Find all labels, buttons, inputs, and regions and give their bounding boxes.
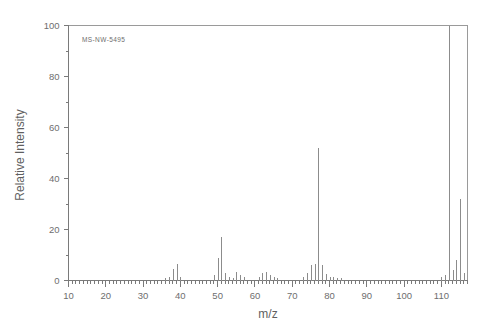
x-tick-label: 30: [138, 290, 149, 301]
y-axis-title: Relative Intensity: [13, 109, 27, 200]
sample-id-label: MS-NW-5495: [82, 36, 125, 43]
y-axis-tick-labels: 020406080100: [44, 20, 60, 286]
x-tick-label: 70: [287, 290, 298, 301]
x-tick-label: 100: [396, 290, 412, 301]
y-tick-label: 40: [49, 173, 60, 184]
y-tick-label: 20: [49, 224, 60, 235]
spectrum-peaks: [166, 26, 465, 281]
plot-frame: [69, 26, 468, 281]
mass-spectrum-figure: 020406080100 102030405060708090100110 Re…: [0, 0, 492, 329]
x-axis-title: m/z: [258, 307, 277, 321]
x-tick-label: 40: [175, 290, 186, 301]
y-tick-label: 80: [49, 71, 60, 82]
y-tick-label: 0: [54, 275, 59, 286]
x-tick-label: 60: [250, 290, 261, 301]
y-tick-label: 100: [44, 20, 60, 31]
y-tick-label: 60: [49, 122, 60, 133]
x-tick-label: 90: [362, 290, 373, 301]
x-tick-label: 80: [324, 290, 335, 301]
x-tick-label: 20: [101, 290, 112, 301]
x-axis-tick-labels: 102030405060708090100110: [63, 290, 449, 301]
x-tick-label: 10: [63, 290, 74, 301]
y-axis-ticks: [64, 26, 69, 281]
x-axis-ticks: [69, 281, 468, 287]
spectrum-canvas: 020406080100 102030405060708090100110 Re…: [0, 0, 492, 329]
x-tick-label: 50: [212, 290, 223, 301]
x-tick-label: 110: [434, 290, 449, 301]
